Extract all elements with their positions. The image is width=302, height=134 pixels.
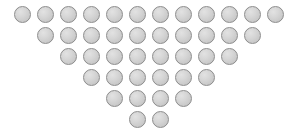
circle-marker (198, 6, 215, 23)
circle-marker (175, 6, 192, 23)
circle-row-5 (106, 90, 192, 107)
circle-marker (152, 111, 169, 128)
circle-marker (175, 27, 192, 44)
circle-marker (129, 69, 146, 86)
circle-marker (60, 6, 77, 23)
circle-marker (106, 48, 123, 65)
circle-row-2 (37, 27, 261, 44)
circle-marker (83, 48, 100, 65)
circle-row-4 (83, 69, 215, 86)
circle-marker (106, 6, 123, 23)
circle-marker (37, 27, 54, 44)
circle-marker (198, 48, 215, 65)
circle-marker (129, 111, 146, 128)
circle-marker (83, 6, 100, 23)
circle-marker (244, 6, 261, 23)
circle-marker (267, 6, 284, 23)
circle-marker (129, 90, 146, 107)
circle-marker (175, 48, 192, 65)
circle-marker (14, 6, 31, 23)
circle-row-6 (129, 111, 169, 128)
circle-marker (60, 48, 77, 65)
circle-marker (221, 27, 238, 44)
circle-marker (152, 27, 169, 44)
circle-marker (83, 69, 100, 86)
circle-marker (106, 90, 123, 107)
circle-marker (152, 48, 169, 65)
circle-marker (152, 90, 169, 107)
circle-marker (83, 27, 100, 44)
circle-marker (152, 6, 169, 23)
circle-marker (106, 27, 123, 44)
circle-pattern-canvas (0, 0, 302, 134)
circle-marker (129, 6, 146, 23)
circle-marker (152, 69, 169, 86)
circle-marker (129, 27, 146, 44)
circle-row-3 (60, 48, 238, 65)
circle-marker (198, 27, 215, 44)
circle-marker (198, 69, 215, 86)
circle-marker (175, 90, 192, 107)
circle-marker (106, 69, 123, 86)
circle-marker (60, 27, 77, 44)
circle-marker (221, 6, 238, 23)
circle-row-1 (14, 6, 284, 23)
circle-marker (175, 69, 192, 86)
circle-marker (129, 48, 146, 65)
circle-marker (37, 6, 54, 23)
circle-marker (221, 48, 238, 65)
circle-marker (244, 27, 261, 44)
